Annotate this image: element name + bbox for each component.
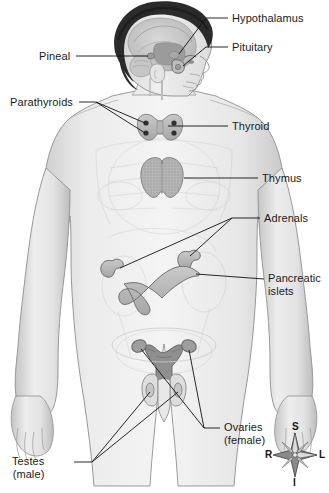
label-pituitary: Pituitary [232, 41, 273, 54]
compass-label-right: R [265, 449, 272, 460]
pineal-gland [147, 53, 154, 59]
label-pancreatic-islets: Pancreatic islets [268, 272, 321, 297]
anatomy-illustration [0, 0, 329, 493]
compass-label-inferior: I [293, 477, 296, 488]
label-testes: Testes (male) [12, 455, 44, 480]
head-sagittal-section [114, 1, 213, 100]
label-parathyroids: Parathyroids [10, 96, 73, 109]
label-thyroid: Thyroid [232, 120, 269, 133]
pituitary-gland [172, 60, 184, 74]
label-hypothalamus: Hypothalamus [232, 12, 304, 25]
label-adrenals: Adrenals [264, 212, 308, 225]
thymus-gland [141, 158, 183, 198]
compass-label-left: L [319, 449, 325, 460]
label-ovaries: Ovaries (female) [224, 421, 265, 446]
endocrine-system-diagram: Hypothalamus Pituitary Pineal Parathyroi… [0, 0, 329, 493]
hypothalamus-region [169, 51, 179, 58]
label-thymus: Thymus [262, 172, 302, 185]
label-pineal: Pineal [39, 50, 70, 63]
compass-label-superior: S [292, 421, 299, 432]
